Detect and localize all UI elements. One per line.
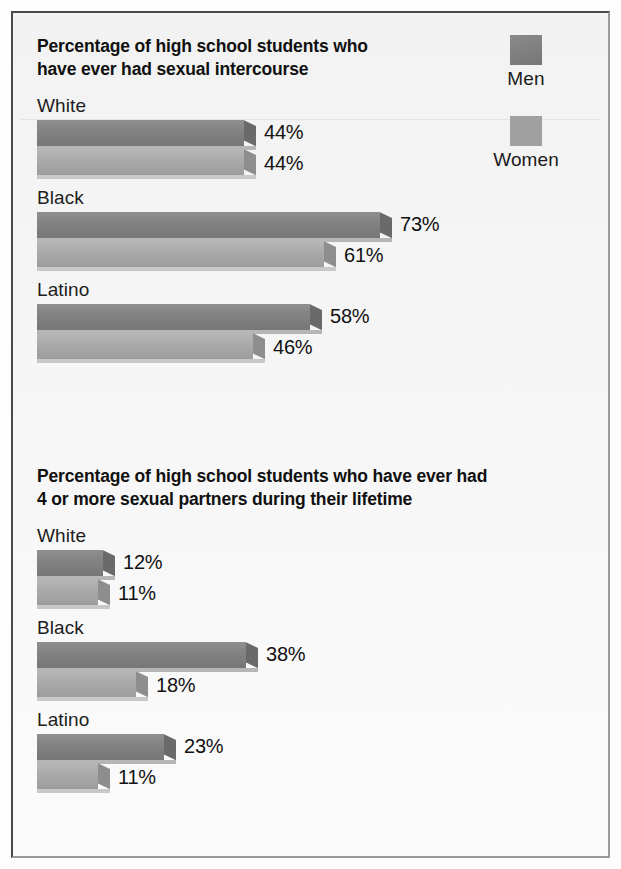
group-label-latino: Latino [37, 709, 577, 731]
bar-value-women: 44% [264, 152, 303, 175]
bar-women [37, 763, 110, 793]
bar-women [37, 671, 148, 701]
bar-men [37, 734, 176, 763]
bar-men [37, 304, 322, 333]
legend-label-men: Men [466, 68, 586, 90]
bar-row-women: 11% [37, 579, 577, 609]
bar-foot [37, 605, 110, 609]
bar-body [37, 120, 244, 146]
bar-value-women: 61% [344, 244, 383, 267]
bar-row-men: 38% [37, 642, 577, 671]
bar-cap [380, 212, 392, 238]
bar-cap [253, 333, 265, 359]
bar-body [37, 304, 310, 330]
bar-body [37, 763, 98, 789]
bar-cap [103, 550, 115, 576]
bar-body [37, 642, 246, 668]
bar-cap [244, 149, 256, 175]
chart-page: Men Women Percentage of high school stud… [0, 0, 621, 869]
bar-men [37, 642, 258, 671]
bar-row-men: 23% [37, 734, 577, 763]
chart1-title-line1: Percentage of high school students who [37, 36, 368, 56]
bar-women [37, 579, 110, 609]
bar-foot [37, 697, 148, 701]
group-label-black: Black [37, 617, 577, 639]
bar-body [37, 241, 324, 267]
bar-value-men: 44% [264, 121, 303, 144]
bar-body [37, 550, 103, 576]
bar-cap [324, 241, 336, 267]
bar-foot [37, 267, 336, 271]
bar-row-women: 11% [37, 763, 577, 793]
legend-item-men: Men [466, 35, 586, 90]
group-black: Black 73% [37, 187, 467, 271]
bars-latino: 58% 46% [37, 304, 467, 363]
bar-value-men: 58% [330, 305, 369, 328]
bar-cap [246, 642, 258, 668]
chart1-title-line2: have ever had sexual intercourse [37, 59, 308, 79]
bar-row-men: 58% [37, 304, 467, 333]
chart1-title: Percentage of high school students who h… [37, 35, 467, 81]
bar-body [37, 734, 164, 760]
chart2-title-line2: 4 or more sexual partners during their l… [37, 489, 412, 509]
page-inner: Men Women Percentage of high school stud… [13, 13, 608, 856]
bar-cap [164, 734, 176, 760]
bars-white: 12% 11% [37, 550, 577, 609]
bar-value-men: 73% [400, 213, 439, 236]
bar-cap [244, 120, 256, 146]
bar-value-men: 12% [123, 551, 162, 574]
bar-cap [98, 579, 110, 605]
bar-foot [37, 789, 110, 793]
bar-body [37, 579, 98, 605]
legend: Men Women [466, 35, 586, 189]
group-latino: Latino 23% [37, 709, 577, 793]
bar-foot [37, 359, 265, 363]
legend-swatch-women-icon [510, 116, 542, 146]
bar-men [37, 212, 392, 241]
bar-row-women: 61% [37, 241, 467, 271]
bars-white: 44% 44% [37, 120, 467, 179]
legend-swatch-men-icon [510, 35, 542, 65]
bars-black: 73% 61% [37, 212, 467, 271]
group-latino: Latino 58% [37, 279, 467, 363]
chart-sexual-intercourse: Percentage of high school students who h… [37, 35, 467, 371]
bar-body [37, 212, 380, 238]
bar-value-women: 11% [118, 766, 156, 789]
group-label-latino: Latino [37, 279, 467, 301]
group-label-white: White [37, 525, 577, 547]
bar-row-men: 44% [37, 120, 467, 149]
group-label-black: Black [37, 187, 467, 209]
bar-row-women: 44% [37, 149, 467, 179]
legend-label-women: Women [466, 149, 586, 171]
bar-men [37, 550, 115, 579]
bars-latino: 23% 11% [37, 734, 577, 793]
group-white: White 12% [37, 525, 577, 609]
bar-body [37, 333, 253, 359]
chart-four-or-more-partners: Percentage of high school students who h… [37, 465, 577, 801]
bar-value-women: 18% [156, 674, 195, 697]
bar-row-men: 12% [37, 550, 577, 579]
group-black: Black 38% [37, 617, 577, 701]
bar-women [37, 241, 336, 271]
chart2-title: Percentage of high school students who h… [37, 465, 577, 511]
group-label-white: White [37, 95, 467, 117]
bar-body [37, 671, 136, 697]
bar-foot [37, 175, 256, 179]
bar-cap [310, 304, 322, 330]
page-frame: Men Women Percentage of high school stud… [11, 11, 610, 858]
bar-value-women: 11% [118, 582, 156, 605]
legend-item-women: Women [466, 116, 586, 171]
bar-value-men: 38% [266, 643, 305, 666]
bar-value-men: 23% [184, 735, 223, 758]
bar-cap [98, 763, 110, 789]
group-white: White 44% [37, 95, 467, 179]
chart2-title-line1: Percentage of high school students who h… [37, 466, 487, 486]
bar-women [37, 333, 265, 363]
bar-cap [136, 671, 148, 697]
bar-body [37, 149, 244, 175]
bar-women [37, 149, 256, 179]
bar-men [37, 120, 256, 149]
bar-row-women: 46% [37, 333, 467, 363]
bars-black: 38% 18% [37, 642, 577, 701]
bar-row-men: 73% [37, 212, 467, 241]
